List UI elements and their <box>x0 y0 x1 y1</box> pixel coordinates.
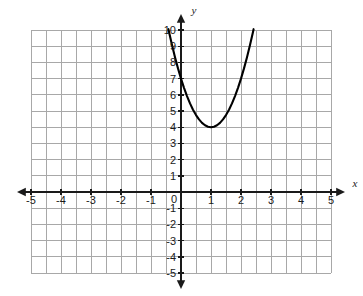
x-tick-label: 4 <box>298 194 304 206</box>
x-tick-label: ‑1 <box>146 194 156 206</box>
y-tick-label: 9 <box>170 40 176 52</box>
y-tick-label: 4 <box>170 121 176 133</box>
x-tick-label: 5 <box>328 194 334 206</box>
y-tick-label: ‑3 <box>166 235 176 247</box>
y-axis-arrow-down <box>177 280 185 289</box>
y-axis-label: y <box>191 4 197 16</box>
y-tick-label: ‑1 <box>166 202 176 214</box>
coordinate-plane-graph: ‑5‑4‑3‑2‑1012345‑5‑4‑3‑2‑112345678910yx <box>0 0 363 296</box>
y-tick-label: ‑5 <box>166 267 176 279</box>
y-tick-label: 10 <box>164 24 176 36</box>
y-tick-label: 8 <box>170 56 176 68</box>
y-tick-label: 1 <box>170 170 176 182</box>
graph-canvas: ‑5‑4‑3‑2‑1012345‑5‑4‑3‑2‑112345678910yx <box>0 0 363 296</box>
x-tick-label: ‑2 <box>116 194 126 206</box>
x-tick-label: ‑4 <box>56 194 66 206</box>
y-tick-label: ‑2 <box>166 218 176 230</box>
y-tick-label: 5 <box>170 105 176 117</box>
x-tick-label: 1 <box>208 194 214 206</box>
x-axis-arrow-left <box>17 188 26 196</box>
x-tick-label: ‑3 <box>86 194 96 206</box>
y-tick-label: ‑4 <box>166 251 176 263</box>
y-tick-label: 2 <box>170 154 176 166</box>
x-axis-label: x <box>352 177 358 189</box>
x-tick-label: 2 <box>238 194 244 206</box>
y-tick-label: 7 <box>170 73 176 85</box>
y-axis-arrow-up <box>177 14 185 23</box>
x-axis-arrow-right <box>336 188 345 196</box>
axes <box>17 14 345 289</box>
y-tick-label: 6 <box>170 89 176 101</box>
x-tick-label: ‑5 <box>26 194 36 206</box>
y-tick-label: 3 <box>170 137 176 149</box>
x-tick-label: 3 <box>268 194 274 206</box>
